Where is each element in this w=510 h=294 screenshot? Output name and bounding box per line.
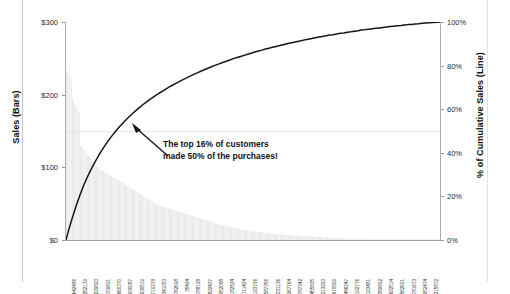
- y-axis-right-tick-mark-1: [441, 196, 444, 197]
- y-axis-left-tick-0: $0: [24, 236, 58, 245]
- y-axis-right-tick-2: 40%: [447, 149, 481, 158]
- x-axis-tick-label: 229823: [94, 279, 99, 294]
- x-axis-tick-label: 367764: [287, 279, 292, 294]
- x-axis-tick-label: 930519: [140, 279, 145, 294]
- x-axis-tick-label: 192776: [355, 279, 360, 294]
- x-axis-tick-label: 341053: [162, 279, 167, 294]
- x-axis-tick-label: 709821: [106, 279, 111, 294]
- x-axis-tick-label: 660370: [117, 279, 122, 294]
- y-axis-left-tick-3: $300: [24, 18, 58, 27]
- x-axis-tick-labels: 6424862521392298237098216603709300879305…: [66, 243, 440, 282]
- x-axis-tick-label: 252139: [83, 279, 88, 294]
- y-axis-right-tick-mark-2: [441, 153, 444, 154]
- y-axis-left-tick-1: $100: [24, 163, 58, 172]
- x-axis-tick-label: 215872: [434, 279, 439, 294]
- x-axis-tick-label: 787342: [298, 279, 303, 294]
- y-axis-right-tick-mark-4: [441, 66, 444, 67]
- cumulative-line: [66, 22, 440, 240]
- y-axis-right-tick-3: 60%: [447, 105, 481, 114]
- y-axis-right-tick-mark-0: [441, 240, 444, 241]
- cumulative-line-series: [66, 22, 440, 240]
- y-axis-right-line: [440, 22, 441, 241]
- y-axis-left-title: Sales (Bars): [11, 77, 21, 157]
- x-axis-tick-label: 35494: [185, 279, 190, 292]
- y-axis-left-tick-2: $200: [24, 91, 58, 100]
- x-axis-tick-label: 562691: [400, 279, 405, 294]
- annotation-line-1: The top 16% of customers: [163, 139, 343, 151]
- x-axis-tick-label: 952088: [219, 279, 224, 294]
- x-axis-tick-label: 103481: [366, 279, 371, 294]
- x-axis-tick-label: 711424: [242, 279, 247, 294]
- x-axis-tick-label: 622514: [389, 279, 394, 294]
- y-axis-right-tick-0: 0%: [447, 236, 481, 245]
- x-axis-tick-label: 486247: [344, 279, 349, 294]
- page-border-right: [487, 0, 488, 282]
- x-axis-tick-label: 455835: [310, 279, 315, 294]
- y-axis-right-tick-4: 80%: [447, 62, 481, 71]
- x-axis-tick-label: 389892: [378, 279, 383, 294]
- y-axis-right-tick-1: 20%: [447, 192, 481, 201]
- y-axis-right-tick-mark-5: [441, 22, 444, 23]
- x-axis-tick-label: 213293: [321, 279, 326, 294]
- x-axis-tick-label: 193796: [253, 279, 258, 294]
- x-axis-line: [65, 240, 441, 241]
- page-border-left: [22, 0, 23, 282]
- x-axis-tick-label: 788198: [196, 279, 201, 294]
- annotation-line-2: made 50% of the purchases!: [163, 151, 343, 163]
- y-axis-right-tick-mark-3: [441, 109, 444, 110]
- x-axis-tick-label: 930087: [128, 279, 133, 294]
- x-axis-tick-label: 670899: [332, 279, 337, 294]
- x-axis-tick-label: 822437: [208, 279, 213, 294]
- x-axis-tick-label: 587356: [264, 279, 269, 294]
- annotation-callout: The top 16% of customers made 50% of the…: [163, 139, 343, 162]
- x-axis-tick-label: 182824: [230, 279, 235, 294]
- x-axis-tick-label: 642486: [72, 279, 77, 294]
- x-axis-tick-label: 231136: [276, 279, 281, 294]
- x-axis-tick-label: 762698: [174, 279, 179, 294]
- x-axis-tick-label: 781673: [412, 279, 417, 294]
- x-axis-tick-label: 710278: [151, 279, 156, 294]
- x-axis-tick-label: 952474: [423, 279, 428, 294]
- y-axis-right-tick-5: 100%: [447, 18, 481, 27]
